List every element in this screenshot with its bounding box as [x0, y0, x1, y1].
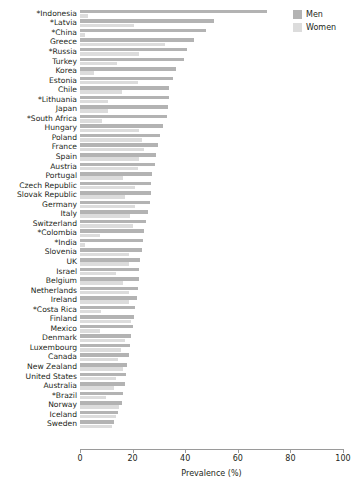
bar-women	[80, 310, 101, 314]
x-axis-tick-label: 60	[233, 454, 243, 463]
bar-men	[80, 239, 143, 243]
chart-plot-area: *Indonesia*Latvia*ChinaGreece*RussiaTurk…	[0, 9, 361, 429]
bar-pair	[80, 181, 343, 191]
chart-row: France	[0, 143, 361, 153]
country-label: *Indonesia	[0, 10, 80, 18]
bar-pair	[80, 372, 343, 382]
bar-pair	[80, 305, 343, 315]
chart-row: *China	[0, 28, 361, 38]
bar-women	[80, 119, 102, 123]
country-label: Sweden	[0, 420, 80, 428]
chart-row: Chile	[0, 85, 361, 95]
country-label: Chile	[0, 86, 80, 94]
bar-pair	[80, 124, 343, 134]
country-label: Spain	[0, 153, 80, 161]
bar-men	[80, 201, 150, 205]
bar-men	[80, 124, 163, 128]
bar-pair	[80, 47, 343, 57]
bar-pair	[80, 95, 343, 105]
bar-pair	[80, 381, 343, 391]
x-axis-tick-label: 80	[285, 454, 295, 463]
bar-men	[80, 191, 151, 195]
x-axis-tick	[133, 449, 134, 453]
country-label: Germany	[0, 201, 80, 209]
bar-women	[80, 138, 142, 142]
chart-row: Sweden	[0, 420, 361, 430]
country-label: Israel	[0, 268, 80, 276]
bar-men	[80, 382, 125, 386]
bar-women	[80, 205, 135, 209]
bar-pair	[80, 143, 343, 153]
bar-women	[80, 243, 85, 247]
chart-row: Slovak Republic	[0, 190, 361, 200]
bar-pair	[80, 190, 343, 200]
bar-pair	[80, 315, 343, 325]
country-label: Belgium	[0, 277, 80, 285]
x-axis: Prevalence (%) 020406080100	[80, 449, 343, 488]
bar-women	[80, 100, 108, 104]
chart-row: *Russia	[0, 47, 361, 57]
country-label: Czech Republic	[0, 182, 80, 190]
bar-women	[80, 195, 125, 199]
chart-row: *Costa Rica	[0, 305, 361, 315]
bar-men	[80, 143, 158, 147]
x-axis-tick-label: 100	[335, 454, 350, 463]
country-label: Netherlands	[0, 287, 80, 295]
bar-men	[80, 115, 167, 119]
country-label: Canada	[0, 353, 80, 361]
country-label: *India	[0, 239, 80, 247]
bar-men	[80, 38, 194, 42]
bar-pair	[80, 353, 343, 363]
country-label: *Latvia	[0, 19, 80, 27]
chart-row: Mexico	[0, 324, 361, 334]
chart-row: *Colombia	[0, 229, 361, 239]
bar-women	[80, 291, 129, 295]
bar-women	[80, 367, 123, 371]
bar-women	[80, 43, 165, 47]
bar-men	[80, 373, 126, 377]
chart-row: Austria	[0, 162, 361, 172]
bar-men	[80, 420, 114, 424]
bar-pair	[80, 362, 343, 372]
bar-women	[80, 272, 116, 276]
country-label: Estonia	[0, 77, 80, 85]
bar-women	[80, 396, 106, 400]
country-label: Portugal	[0, 172, 80, 180]
chart-row: Ireland	[0, 295, 361, 305]
bar-men	[80, 48, 187, 52]
bar-men	[80, 10, 267, 14]
bar-women	[80, 148, 144, 152]
bar-pair	[80, 219, 343, 229]
bar-women	[80, 214, 130, 218]
country-label: Mexico	[0, 325, 80, 333]
country-label: *Colombia	[0, 229, 80, 237]
bar-women	[80, 329, 100, 333]
country-label: Australia	[0, 382, 80, 390]
bar-women	[80, 415, 116, 419]
bar-women	[80, 129, 139, 133]
bar-pair	[80, 209, 343, 219]
x-axis-tick	[80, 449, 81, 453]
bar-women	[80, 300, 129, 304]
chart-row: Norway	[0, 400, 361, 410]
bar-women	[80, 386, 114, 390]
bar-women	[80, 320, 131, 324]
country-label: Greece	[0, 38, 80, 46]
country-label: Slovak Republic	[0, 191, 80, 199]
bar-women	[80, 176, 123, 180]
bar-men	[80, 287, 138, 291]
bar-pair	[80, 66, 343, 76]
bar-women	[80, 425, 112, 429]
chart-row: *India	[0, 238, 361, 248]
bar-pair	[80, 248, 343, 258]
chart-row: Luxembourg	[0, 343, 361, 353]
bar-women	[80, 157, 139, 161]
country-label: Finland	[0, 315, 80, 323]
bar-men	[80, 334, 131, 338]
bar-pair	[80, 295, 343, 305]
chart-row: Estonia	[0, 76, 361, 86]
chart-row: *South Africa	[0, 114, 361, 124]
bar-pair	[80, 114, 343, 124]
bar-men	[80, 353, 129, 357]
bar-pair	[80, 171, 343, 181]
